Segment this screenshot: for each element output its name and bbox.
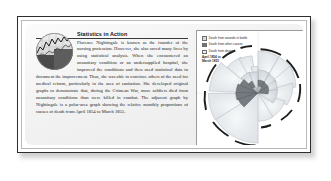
feature-box-panel: Statistics in Action Florence Nightingal… <box>25 24 303 145</box>
line-graph-photo-icon <box>36 33 73 70</box>
chart-date-range-note: April 1854 toMarch 1855 <box>202 55 221 64</box>
legend-swatch-disease <box>202 50 207 55</box>
legend-swatch-other <box>202 43 207 48</box>
document-page: Statistics in Action Florence Nightingal… <box>0 0 331 181</box>
legend-label-other: Death from other causes <box>209 43 243 46</box>
chart-panel: Death from wounds in battle Death from o… <box>196 30 303 145</box>
chart-legend: Death from wounds in battle Death from o… <box>202 36 264 56</box>
legend-label-disease: Death from disease <box>209 50 236 53</box>
legend-label-wounds: Death from wounds in battle <box>209 37 248 40</box>
legend-item: Death from disease <box>202 50 264 55</box>
article: Statistics in Action Florence Nightingal… <box>36 31 188 145</box>
feature-box-mat: Statistics in Action Florence Nightingal… <box>21 20 307 149</box>
feature-box-frame: Statistics in Action Florence Nightingal… <box>17 16 311 153</box>
legend-item: Death from wounds in battle <box>202 36 264 41</box>
legend-item: Death from other causes <box>202 43 264 48</box>
legend-swatch-wounds <box>202 36 207 41</box>
